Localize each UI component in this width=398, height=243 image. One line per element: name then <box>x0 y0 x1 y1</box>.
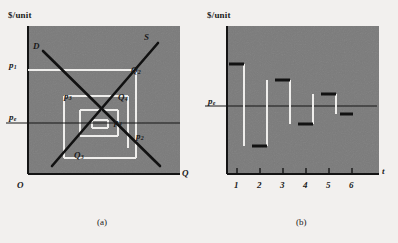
panel-a-label-Q2: Q2 <box>131 65 141 75</box>
panel-a-label-p3: p3 <box>64 91 72 101</box>
panel-b-xtick-label-3: 3 <box>280 180 285 190</box>
panel-b-plot <box>199 18 398 218</box>
panel-a-tick-p1: p1 <box>9 60 17 70</box>
panel-a-label-p4: p4 <box>114 117 122 127</box>
panel-a-plot <box>0 18 199 218</box>
panel-a: $/unit <box>0 0 199 243</box>
panel-b-xtick-label-5: 5 <box>326 180 331 190</box>
panel-a-label-Q3: Q3 <box>74 150 84 160</box>
panel-a-tick-pe: pe <box>9 112 17 122</box>
panel-a-caption: (a) <box>97 217 107 227</box>
panel-a-label-Q4: Q4 <box>118 92 128 102</box>
panel-b-xtick-label-4: 4 <box>303 180 308 190</box>
panel-a-origin-label: O <box>17 180 24 190</box>
panel-b-xtick-label-6: 6 <box>349 180 354 190</box>
panel-a-x-axis-title: Q <box>182 168 189 178</box>
figure-container: $/unit <box>0 0 398 243</box>
panel-b-tick-pe: pe <box>208 96 216 106</box>
panel-b-xtick-label-2: 2 <box>257 180 262 190</box>
panel-a-label-S: S <box>144 32 149 42</box>
panel-b-x-axis-title: t <box>382 166 385 176</box>
panel-a-label-p2: p2 <box>136 131 144 141</box>
panel-b-xtick-label-1: 1 <box>234 180 239 190</box>
panel-b-caption: (b) <box>296 217 307 227</box>
panel-b: $/unit <box>199 0 398 243</box>
panel-a-label-D: D <box>33 41 40 51</box>
